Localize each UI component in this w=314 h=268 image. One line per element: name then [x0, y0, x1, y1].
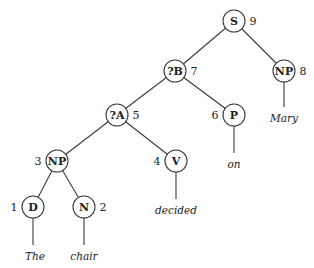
node-label: P — [230, 109, 238, 122]
leaf-word: chair — [70, 250, 98, 262]
node-number: 2 — [100, 201, 107, 214]
node-number: 4 — [154, 155, 161, 168]
tree-nodes: S9NP8?B7?A5P6NP3V4D1N2 — [11, 10, 307, 218]
tree-node-D: D1 — [11, 196, 45, 218]
edge-S-B — [175, 21, 234, 71]
leaf-words: MaryondecidedThechair — [25, 112, 299, 262]
tree-node-S: S9 — [223, 10, 257, 32]
node-label: N — [79, 201, 89, 214]
tree-node-P: P6 — [212, 104, 246, 126]
node-label: ?B — [167, 65, 183, 78]
node-label: S — [230, 15, 238, 28]
node-label: V — [171, 155, 181, 168]
leaf-word: decided — [155, 204, 197, 216]
parse-tree-diagram: S9NP8?B7?A5P6NP3V4D1N2 MaryondecidedThec… — [0, 0, 314, 268]
node-number: 7 — [191, 65, 198, 78]
tree-node-B: ?B7 — [164, 60, 198, 82]
node-number: 6 — [212, 109, 219, 122]
tree-node-A: ?A5 — [106, 104, 140, 126]
node-number: 9 — [250, 15, 257, 28]
tree-node-NP8: NP8 — [273, 60, 307, 82]
leaf-word: on — [227, 158, 240, 170]
leaf-word: The — [25, 250, 45, 262]
node-label: ?A — [110, 109, 125, 122]
leaf-word: Mary — [269, 112, 299, 124]
node-number: 1 — [11, 201, 18, 214]
tree-node-V: V4 — [154, 150, 188, 172]
node-number: 5 — [133, 109, 140, 122]
node-number: 3 — [35, 155, 42, 168]
node-label: NP — [48, 155, 66, 168]
node-label: NP — [275, 65, 293, 78]
node-number: 8 — [300, 65, 307, 78]
node-label: D — [28, 201, 38, 214]
tree-edges — [33, 21, 284, 207]
tree-node-N: N2 — [73, 196, 107, 218]
tree-node-NP3: NP3 — [35, 150, 69, 172]
